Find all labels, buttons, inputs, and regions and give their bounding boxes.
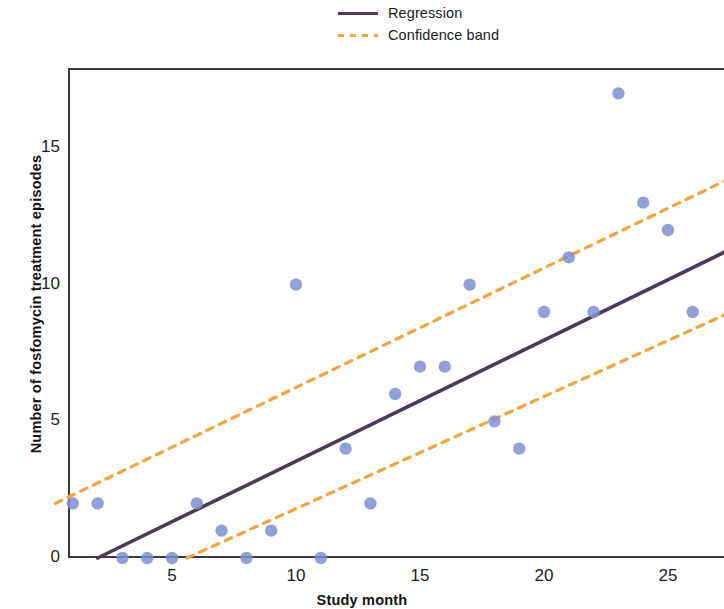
regression-line-swatch-icon	[336, 6, 380, 20]
confidence-band-swatch-icon	[336, 28, 380, 42]
x-axis-title: Study month	[0, 592, 724, 608]
chart-legend: Regression Confidence band	[336, 2, 556, 48]
x-axis-tick-label: 15	[395, 566, 445, 586]
legend-label-regression: Regression	[380, 5, 462, 21]
x-axis-tick-label: 20	[519, 566, 569, 586]
scatter-plot-figure: Regression Confidence band 051015 510152…	[0, 0, 724, 609]
legend-item-confidence-band: Confidence band	[336, 24, 556, 46]
plot-area-frame	[68, 68, 724, 558]
x-axis-tick-label: 25	[643, 566, 693, 586]
legend-item-regression: Regression	[336, 2, 556, 24]
y-axis-title: Number of fosfomycin treatment episodes	[28, 54, 44, 554]
x-axis-tick-label: 5	[147, 566, 197, 586]
x-axis-tick-label: 10	[271, 566, 321, 586]
x-axis-tick-labels: 510152025	[0, 566, 724, 592]
legend-label-confidence-band: Confidence band	[380, 27, 499, 43]
